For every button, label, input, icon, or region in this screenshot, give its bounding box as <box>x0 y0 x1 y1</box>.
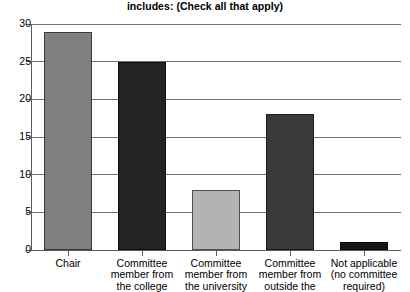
bar <box>192 190 240 250</box>
chart-title: includes: (Check all that apply) <box>0 0 410 13</box>
bar <box>266 114 314 250</box>
y-tick-label: 15 <box>7 131 31 141</box>
x-axis-label-line: the college <box>105 281 179 292</box>
x-axis-label: Committeemember fromthe college <box>105 258 179 292</box>
x-axis-label-line: Chair <box>31 258 105 269</box>
x-axis-label-line: outside the <box>253 281 327 292</box>
x-tick-mark <box>216 251 217 256</box>
y-tick-label: 30 <box>7 18 31 28</box>
bar <box>340 242 388 250</box>
y-axis-ticks: 051015202530 <box>0 0 31 292</box>
y-tick-label: 25 <box>7 56 31 66</box>
bar <box>118 62 166 250</box>
x-tick-mark <box>364 251 365 256</box>
x-axis-label-line: the university <box>179 281 253 292</box>
x-axis-label: Chair <box>31 258 105 269</box>
x-tick-mark <box>142 251 143 256</box>
x-tick-mark <box>290 251 291 256</box>
y-tick-label: 20 <box>7 93 31 103</box>
gridline <box>31 24 401 25</box>
x-axis-label: Not applicable(no committeerequired) <box>327 258 401 292</box>
y-tick-label: 5 <box>7 206 31 216</box>
x-axis-label-line: required) <box>327 281 401 292</box>
bar <box>44 32 92 250</box>
x-axis-label: Committeemember fromthe university <box>179 258 253 292</box>
y-tick-label: 0 <box>7 244 31 254</box>
y-tick-label: 10 <box>7 169 31 179</box>
bar-chart-screenshot: includes: (Check all that apply) 0510152… <box>0 0 410 292</box>
x-tick-mark <box>68 251 69 256</box>
plot-area <box>31 24 401 250</box>
x-axis-label: Committeemember fromoutside the <box>253 258 327 292</box>
